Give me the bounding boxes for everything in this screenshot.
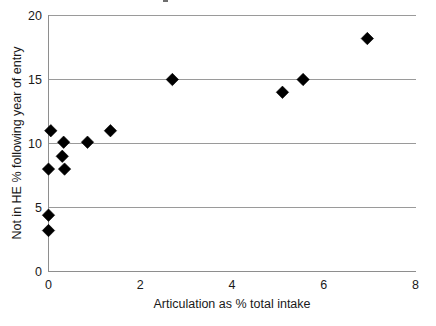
y-axis-title: Not in HE % following year of entry <box>10 46 24 240</box>
x-axis-title: Articulation as % total intake <box>153 297 310 311</box>
x-tick-label-8: 8 <box>412 278 419 292</box>
x-tick-labels: 0 2 4 6 8 <box>45 278 419 292</box>
x-tick-label-6: 6 <box>320 278 327 292</box>
x-tick-label-2: 2 <box>137 278 144 292</box>
scatter-chart-figure: 20 15 10 5 0 0 2 4 6 8 Articulation as %… <box>0 0 436 326</box>
data-point <box>42 163 54 175</box>
y-tick-label-15: 15 <box>28 73 42 87</box>
y-tick-label-5: 5 <box>35 201 42 215</box>
data-point <box>297 73 309 85</box>
data-point <box>56 150 68 162</box>
data-point <box>104 125 116 137</box>
data-point <box>57 136 69 148</box>
plot-area: 20 15 10 5 0 0 2 4 6 8 Articulation as %… <box>0 0 436 326</box>
gridlines <box>49 16 416 208</box>
y-tick-labels: 20 15 10 5 0 <box>28 9 42 279</box>
y-tick-label-0: 0 <box>35 265 42 279</box>
data-point <box>276 86 288 98</box>
y-tick-label-10: 10 <box>28 137 42 151</box>
data-point-series <box>42 32 373 236</box>
data-point <box>166 73 178 85</box>
data-point <box>81 136 93 148</box>
x-tick-label-4: 4 <box>229 278 236 292</box>
y-tick-label-20: 20 <box>28 9 42 23</box>
scan-artifact <box>163 0 168 2</box>
data-point <box>58 163 70 175</box>
data-point <box>45 125 57 137</box>
data-point <box>361 32 373 44</box>
data-point <box>42 224 54 236</box>
x-tick-label-0: 0 <box>45 278 52 292</box>
data-point <box>42 209 54 221</box>
